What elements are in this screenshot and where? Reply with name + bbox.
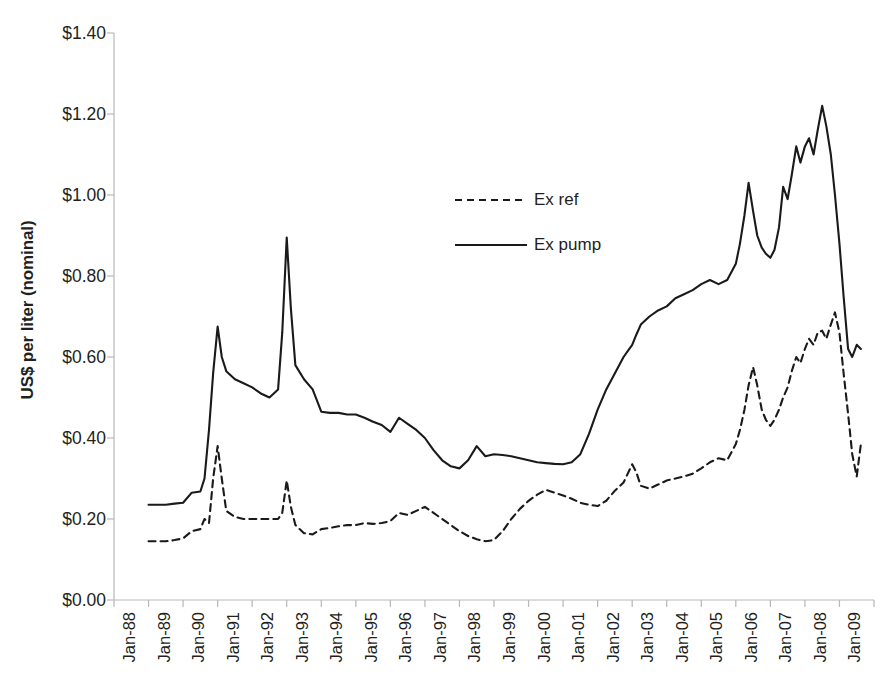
y-axis-tick-label: $0.40 <box>42 428 106 449</box>
x-axis-tick-label: Jan-01 <box>569 612 588 662</box>
x-axis-tick-label: Jan-08 <box>811 612 830 662</box>
x-axis-tick-label: Jan-99 <box>500 612 519 662</box>
axes-layer <box>107 33 874 607</box>
x-axis-tick-label: Jan-05 <box>707 612 726 662</box>
series-layer <box>149 106 861 541</box>
y-axis-tick-label: $0.60 <box>42 347 106 368</box>
series-line-ex-ref <box>149 312 861 541</box>
legend-layer <box>455 200 527 245</box>
x-axis-tick-label: Jan-03 <box>638 612 657 662</box>
y-axis-tick-label: $0.80 <box>42 266 106 287</box>
x-axis-tick-label: Jan-96 <box>396 612 415 662</box>
x-axis-tick-label: Jan-06 <box>742 612 761 662</box>
x-axis-tick-label: Jan-97 <box>431 612 450 662</box>
y-axis-title: US$ per liter (nominal) <box>18 220 38 399</box>
x-axis-tick-label: Jan-09 <box>845 612 864 662</box>
x-axis-tick-labels: Jan-88Jan-89Jan-90Jan-91Jan-92Jan-93Jan-… <box>0 608 880 698</box>
legend-label-ex-ref: Ex ref <box>534 190 578 210</box>
y-axis-tick-label: $1.20 <box>42 104 106 125</box>
x-axis-tick-label: Jan-07 <box>776 612 795 662</box>
series-line-ex-pump <box>149 106 861 505</box>
y-axis-tick-label: $0.20 <box>42 509 106 530</box>
x-axis-tick-label: Jan-90 <box>189 612 208 662</box>
legend-label-ex-pump: Ex pump <box>534 235 601 255</box>
x-axis-tick-label: Jan-02 <box>604 612 623 662</box>
x-axis-tick-label: Jan-89 <box>155 612 174 662</box>
x-axis-tick-label: Jan-91 <box>224 612 243 662</box>
x-axis-tick-label: Jan-93 <box>293 612 312 662</box>
chart-container: US$ per liter (nominal) $0.00$0.20$0.40$… <box>0 0 880 698</box>
y-axis-tick-label: $1.00 <box>42 185 106 206</box>
x-axis-tick-label: Jan-88 <box>120 612 139 662</box>
y-axis-tick-labels: $0.00$0.20$0.40$0.60$0.80$1.00$1.20$1.40 <box>38 0 106 620</box>
chart-plot-area <box>0 0 880 698</box>
x-axis-tick-label: Jan-00 <box>535 612 554 662</box>
x-axis-tick-label: Jan-98 <box>465 612 484 662</box>
y-axis-tick-label: $1.40 <box>42 23 106 44</box>
x-axis-tick-label: Jan-04 <box>673 612 692 662</box>
x-axis-tick-label: Jan-92 <box>258 612 277 662</box>
x-axis-tick-label: Jan-94 <box>327 612 346 662</box>
x-axis-tick-label: Jan-95 <box>362 612 381 662</box>
